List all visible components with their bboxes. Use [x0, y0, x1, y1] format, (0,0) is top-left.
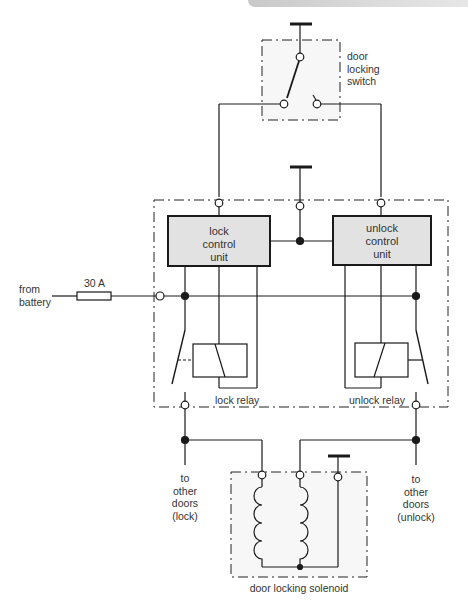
label-line: doors	[388, 498, 444, 511]
switch-label-line: switch	[347, 75, 380, 88]
lock-relay-label: lock relay	[215, 394, 259, 407]
switch-label-line: locking	[347, 63, 380, 76]
battery-label-line: from	[19, 283, 51, 296]
unit-label-line: unit	[333, 248, 431, 261]
fuse-rating-label: 30 A	[84, 277, 105, 290]
label-line: other	[388, 486, 444, 499]
lock-relay	[172, 330, 257, 388]
label-line: (lock)	[160, 510, 210, 523]
label-line: other	[160, 485, 210, 498]
lock-control-unit-label: lock control unit	[168, 225, 270, 264]
switch-label: door locking switch	[347, 50, 380, 88]
unlock-relay	[345, 330, 428, 388]
unit-label-line: control	[333, 235, 431, 248]
label-line: to	[388, 473, 444, 486]
fuse-30a	[77, 292, 111, 300]
unit-label-line: control	[168, 238, 270, 251]
door-locking-circuit-diagram: door locking switch lock control unit un…	[0, 0, 468, 609]
door-locking-solenoid	[231, 456, 367, 577]
other-doors-lock-label: to other doors (lock)	[160, 472, 210, 522]
unit-label-line: lock	[168, 225, 270, 238]
unlock-relay-label: unlock relay	[349, 394, 405, 407]
unit-label-line: unit	[168, 251, 270, 264]
unit-label-line: unlock	[333, 222, 431, 235]
switch-label-line: door	[347, 50, 380, 63]
label-line: to	[160, 472, 210, 485]
battery-label-line: battery	[19, 296, 51, 309]
label-line: (unlock)	[388, 511, 444, 524]
battery-label: from battery	[19, 283, 51, 308]
label-line: doors	[160, 497, 210, 510]
solenoid-label: door locking solenoid	[221, 582, 377, 595]
unlock-control-unit-label: unlock control unit	[333, 222, 431, 261]
other-doors-unlock-label: to other doors (unlock)	[388, 473, 444, 523]
